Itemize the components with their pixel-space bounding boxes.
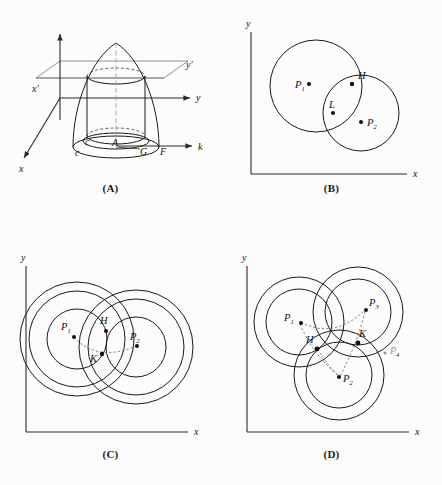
label-axis-y: y xyxy=(245,18,251,29)
panel-d: y x P1 xyxy=(221,242,442,484)
label-h: H xyxy=(305,334,315,345)
label-p1: P1 xyxy=(294,79,305,92)
label-k: K xyxy=(89,353,98,364)
label-k: K xyxy=(358,328,367,339)
point-k-dot xyxy=(356,341,361,346)
label-point-c-outer: c xyxy=(75,147,80,158)
label-axis-x: x xyxy=(412,168,418,179)
caption-panel-c: (C) xyxy=(0,448,221,460)
point-p1-dot xyxy=(307,82,311,86)
panel-a: y′ x′ y x k c c A G F (A) xyxy=(0,0,221,242)
point-p3-dot xyxy=(364,308,368,312)
label-axis-x: x xyxy=(18,163,24,174)
label-p4-handwritten: P4 xyxy=(389,345,400,358)
panel-c: y x P1 P2 H K xyxy=(0,242,221,484)
circle-p1-inner xyxy=(266,289,332,355)
figure-sheet: y′ x′ y x k c c A G F (A) y x xyxy=(0,0,442,485)
point-p2-dot xyxy=(337,375,341,379)
point-p2-dot xyxy=(135,344,139,348)
label-y-prime: y′ xyxy=(185,59,193,70)
point-p1-dot xyxy=(299,321,303,325)
caption-panel-b: (B) xyxy=(221,182,442,194)
point-h-dot xyxy=(350,82,354,86)
label-axis-y: y xyxy=(195,92,201,103)
caption-panel-a: (A) xyxy=(0,182,221,194)
connector-p1-p3 xyxy=(301,310,365,329)
label-l: L xyxy=(328,99,335,110)
panel-b-drawing: y x P1 P2 H L xyxy=(221,0,442,200)
label-point-c-inner: c xyxy=(85,136,90,147)
point-h-dot xyxy=(315,347,320,352)
label-point-G: G xyxy=(140,146,147,157)
panel-c-drawing: y x P1 P2 H K xyxy=(0,242,221,464)
label-axis-k: k xyxy=(198,141,203,152)
connector-h-p2 xyxy=(317,349,339,376)
point-h-dot xyxy=(104,329,108,333)
label-axis-y: y xyxy=(241,252,247,263)
circle-p1-outer xyxy=(20,282,134,396)
label-p1: P1 xyxy=(60,321,71,334)
label-p2: P2 xyxy=(366,117,377,130)
label-p1: P1 xyxy=(283,312,294,325)
label-p2: P2 xyxy=(342,373,353,386)
panel-a-drawing: y′ x′ y x k c c A G F xyxy=(0,0,221,200)
point-k-dot xyxy=(100,352,104,356)
point-p4-dot xyxy=(383,351,386,354)
label-x-prime: x′ xyxy=(31,83,39,94)
label-axis-x: x xyxy=(193,426,199,437)
panel-b: y x P1 P2 H L (B) xyxy=(221,0,442,242)
label-point-A: A xyxy=(111,137,119,148)
point-l-dot xyxy=(331,111,335,115)
label-h: H xyxy=(99,315,109,326)
panel-d-drawing: y x P1 xyxy=(221,242,442,464)
label-p3: P3 xyxy=(368,297,379,310)
label-axis-x: x xyxy=(414,426,420,437)
label-point-F: F xyxy=(159,146,167,157)
point-p1-dot xyxy=(72,335,76,339)
label-axis-y: y xyxy=(20,252,26,263)
label-h: H xyxy=(357,70,367,81)
label-p2: P2 xyxy=(129,331,140,344)
caption-panel-d: (D) xyxy=(221,448,442,460)
point-p2-dot xyxy=(359,120,363,124)
cutting-plane xyxy=(36,61,188,78)
circle-p1-mid xyxy=(29,291,125,387)
circle-p1 xyxy=(270,40,362,132)
axis-x xyxy=(24,98,60,158)
